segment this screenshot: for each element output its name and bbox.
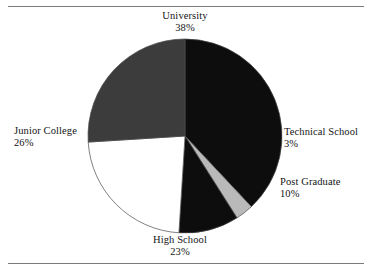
slice-label-university-value: 38% bbox=[162, 22, 207, 34]
pie-slice-junior-college[interactable] bbox=[88, 39, 185, 142]
slice-label-post-graduate-name: Post Graduate bbox=[280, 176, 341, 188]
slice-label-high-school: High School 23% bbox=[153, 234, 207, 259]
slice-label-post-graduate: Post Graduate 10% bbox=[280, 176, 341, 201]
slice-label-post-graduate-value: 10% bbox=[280, 188, 341, 200]
slice-label-technical-school-name: Technical School bbox=[284, 126, 358, 138]
slice-label-high-school-name: High School bbox=[153, 234, 207, 246]
pie-slice-group bbox=[88, 39, 282, 233]
slice-label-junior-college-value: 26% bbox=[14, 137, 77, 149]
slice-label-university: University 38% bbox=[162, 10, 207, 35]
slice-label-high-school-value: 23% bbox=[153, 246, 207, 258]
pie-slice-high-school[interactable] bbox=[88, 136, 185, 233]
pie-chart-figure: University 38% Technical School 3% Post … bbox=[0, 0, 372, 278]
slice-label-junior-college: Junior College 26% bbox=[14, 125, 77, 150]
slice-label-junior-college-name: Junior College bbox=[14, 125, 77, 137]
slice-label-technical-school-value: 3% bbox=[284, 138, 358, 150]
slice-label-technical-school: Technical School 3% bbox=[284, 126, 358, 151]
slice-label-university-name: University bbox=[162, 10, 207, 22]
